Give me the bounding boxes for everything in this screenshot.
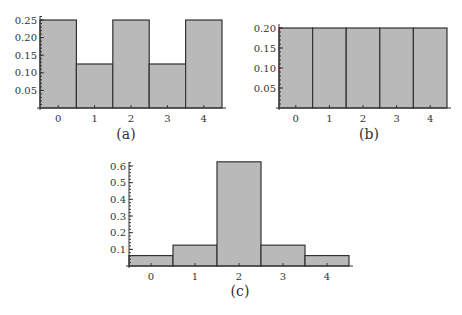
chart-c-caption: (c): [220, 283, 260, 299]
bar-2: [217, 162, 261, 266]
y-tick-label: 0.1: [110, 244, 126, 255]
bar-3: [261, 245, 305, 266]
chart-c: 0.10.20.30.40.50.601234 (c): [0, 0, 462, 315]
y-tick-label: 0.5: [110, 177, 126, 188]
x-tick-label: 1: [192, 271, 198, 282]
y-tick-label: 0.3: [110, 211, 126, 222]
y-tick-label: 0.6: [110, 161, 126, 172]
y-tick-label: 0.4: [110, 194, 126, 205]
x-tick-label: 0: [148, 271, 154, 282]
x-tick-label: 3: [280, 271, 286, 282]
x-tick-label: 4: [324, 271, 330, 282]
y-tick-label: 0.2: [110, 227, 126, 238]
x-tick-label: 2: [236, 271, 242, 282]
bar-1: [173, 245, 217, 266]
chart-c-plot: 0.10.20.30.40.50.601234: [0, 0, 462, 315]
